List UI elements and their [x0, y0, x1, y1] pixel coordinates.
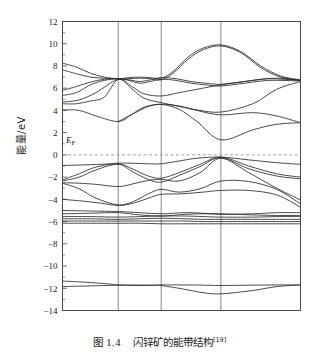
y-tick-label: −2: [48, 172, 58, 182]
band-curve: [63, 223, 301, 224]
axis-ticks: [63, 22, 68, 311]
y-axis-label: 能量/eV: [13, 96, 28, 176]
y-tick-label: 2: [53, 128, 58, 138]
band-curve: [63, 281, 301, 285]
y-tick-label: 6: [53, 83, 58, 93]
band-curve: [63, 79, 301, 96]
band-structure-figure: 121086420−2−4−6−8−10−12−14 XRMGR EF 能量/e…: [0, 0, 319, 363]
y-tick-label: 8: [53, 61, 58, 71]
band-curves: [63, 45, 301, 294]
y-tick-label: 12: [49, 17, 58, 27]
y-tick-label: −6: [48, 217, 58, 227]
y-tick-label: −8: [48, 239, 58, 249]
band-curve: [63, 45, 301, 80]
x-tick-label: M: [157, 320, 166, 321]
band-curve: [63, 78, 301, 91]
band-curve: [63, 221, 301, 222]
caption-title: 闪锌矿的能带结构: [133, 336, 213, 348]
y-tick-label: −4: [48, 195, 58, 205]
band-curve: [63, 218, 301, 219]
caption-number: 图 1.4: [93, 337, 121, 348]
plot-area: 121086420−2−4−6−8−10−12−14 XRMGR EF: [0, 0, 319, 320]
y-tick-label: −12: [43, 284, 57, 294]
band-curve: [63, 157, 301, 165]
y-tick-labels: 121086420−2−4−6−8−10−12−14: [43, 17, 58, 316]
x-tick-labels: XRMGR: [59, 320, 304, 321]
band-curve: [63, 216, 301, 217]
caption-reference: [19]: [213, 336, 226, 344]
y-tick-label: −14: [43, 306, 58, 316]
x-tick-label: G: [217, 320, 224, 321]
x-tick-label: R: [297, 320, 304, 321]
band-curve: [63, 190, 301, 207]
x-tick-label: R: [115, 320, 122, 321]
y-tick-label: 4: [53, 106, 58, 116]
y-tick-label: −10: [43, 261, 58, 271]
band-curve: [63, 79, 301, 112]
grid-lines: [118, 22, 221, 311]
figure-caption: 图 1.4闪锌矿的能带结构[19]: [0, 334, 319, 349]
band-structure-chart: 121086420−2−4−6−8−10−12−14 XRMGR EF: [0, 0, 319, 320]
fermi-level-label: EF: [65, 135, 76, 146]
band-curve: [118, 104, 300, 140]
x-tick-label: X: [59, 320, 66, 321]
y-tick-label: 0: [53, 150, 58, 160]
y-tick-label: 10: [49, 39, 59, 49]
band-curve: [63, 285, 301, 294]
band-curve: [63, 210, 301, 214]
